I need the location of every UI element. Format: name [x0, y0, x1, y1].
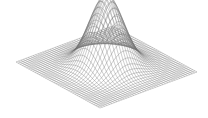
mesh-line	[77, 14, 161, 85]
mesh-line	[35, 55, 119, 101]
mesh-line	[45, 20, 142, 78]
mesh-line	[92, 67, 189, 103]
mesh-line	[94, 69, 191, 105]
mesh-line	[24, 31, 121, 67]
surface-plot	[0, 0, 208, 118]
wireframe-mesh	[16, 0, 197, 108]
mesh-line	[20, 28, 117, 64]
mesh-line	[31, 34, 128, 70]
mesh-line	[87, 65, 184, 101]
mesh-line	[37, 37, 134, 73]
mesh-line	[40, 53, 124, 99]
mesh-line	[98, 71, 195, 107]
mesh-line	[91, 34, 175, 80]
mesh-line	[85, 64, 182, 100]
mesh-line	[77, 58, 174, 96]
